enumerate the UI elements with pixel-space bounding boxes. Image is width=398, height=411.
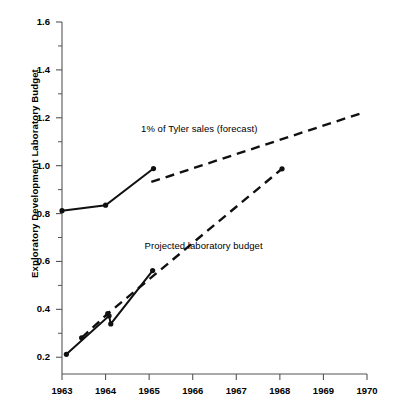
series-line	[82, 169, 282, 338]
y-tick-label: 1.6	[20, 16, 50, 27]
x-tick-label: 1963	[42, 385, 82, 396]
y-tick-label: 0.4	[20, 303, 50, 314]
chart-series-group	[59, 113, 360, 356]
chart-figure: Exploratory Development Laboratory Budge…	[0, 0, 398, 411]
x-tick-label: 1969	[303, 385, 343, 396]
data-point-marker	[105, 311, 110, 316]
x-tick-label: 1965	[129, 385, 169, 396]
y-axis	[56, 22, 62, 374]
data-point-marker	[279, 166, 284, 171]
data-point-marker	[108, 321, 113, 326]
x-tick-label: 1968	[260, 385, 300, 396]
x-axis-ticks	[62, 374, 367, 380]
y-tick-label: 0.8	[20, 208, 50, 219]
x-tick-label: 1964	[86, 385, 126, 396]
data-point-marker	[103, 203, 108, 208]
y-tick-label: 0.6	[20, 255, 50, 266]
data-point-marker	[64, 352, 69, 357]
y-axis-minor-ticks	[58, 46, 62, 333]
data-point-marker	[79, 335, 84, 340]
x-tick-label: 1967	[216, 385, 256, 396]
y-tick-label: 1.0	[20, 160, 50, 171]
data-point-marker	[150, 268, 155, 273]
series-annotation-label: 1% of Tyler sales (forecast)	[141, 123, 257, 134]
x-tick-label: 1970	[347, 385, 387, 396]
chart-plot-area	[0, 0, 398, 411]
y-tick-label: 0.2	[20, 351, 50, 362]
y-tick-label: 1.2	[20, 112, 50, 123]
data-point-marker	[59, 208, 64, 213]
x-axis	[62, 374, 367, 380]
data-point-marker	[151, 166, 156, 171]
x-tick-label: 1966	[173, 385, 213, 396]
y-tick-label: 1.4	[20, 64, 50, 75]
series-annotation-label: Projected laboratory budget	[145, 240, 263, 251]
